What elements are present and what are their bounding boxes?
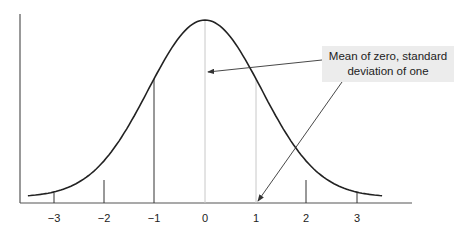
tick-label: 3	[354, 212, 360, 224]
arrow-to-mean	[208, 60, 322, 72]
tick-label: −1	[148, 212, 161, 224]
tick-label: −2	[98, 212, 111, 224]
normal-distribution-chart: −3 −2 −1 0 1 2 3	[0, 0, 459, 231]
arrow-to-one-sd	[258, 82, 342, 201]
annotation-line-1: Mean of zero, standard	[322, 49, 454, 64]
tick-label: 0	[202, 212, 208, 224]
annotation-box: Mean of zero, standard deviation of one	[322, 46, 454, 82]
annotation-line-2: deviation of one	[322, 64, 454, 79]
tick-label: 2	[303, 212, 309, 224]
tick-label: −3	[48, 212, 61, 224]
tick-label: 1	[253, 212, 259, 224]
